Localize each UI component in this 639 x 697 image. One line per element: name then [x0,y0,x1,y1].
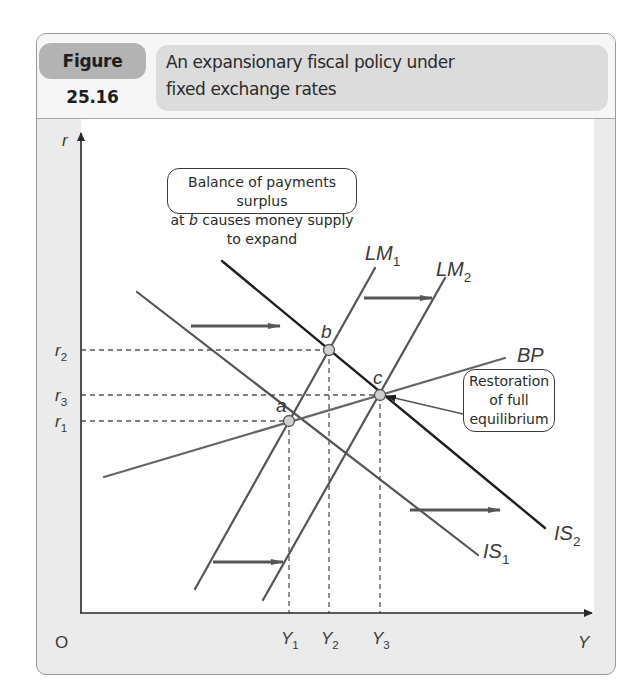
x-tick-Y3: Y3 [372,629,390,651]
y-tick-labels: r2r3r1 [55,341,67,434]
is-lm-bp-chart: IS1IS2LM1LM2BP abc r O Y Y1Y2Y3 r2r3r1 [0,0,639,697]
x-tick-labels: Y1Y2Y3 [281,629,390,651]
bp-label: BP [517,344,544,366]
bop-surplus-callout: Balance of payments surplus at b causes … [167,168,357,214]
equilibrium-point-a [284,416,295,427]
bop-callout-point-ref: b [189,212,198,228]
x-tick-Y1: Y1 [281,629,299,651]
y-axis-label: r [62,131,69,150]
origin-label: O [55,633,68,652]
x-tick-Y2: Y2 [321,629,339,651]
equilibrium-point-c [375,390,386,401]
y-tick-r2: r2 [55,341,67,363]
restoration-line1: Restoration [464,372,554,391]
restoration-line2: of full [464,391,554,410]
restoration-line3: equilibrium [464,410,554,429]
y-tick-r3: r3 [55,386,67,408]
point-label-b: b [321,321,332,342]
bop-callout-line1: Balance of payments surplus [168,173,356,211]
bop-callout-text: causes money supply to expand [198,212,354,247]
point-label-c: c [373,367,383,388]
point-label-a: a [276,395,287,416]
bop-callout-line2: at b causes money supply to expand [168,211,356,249]
equilibrium-point-b [324,345,335,356]
y-tick-r1: r1 [55,412,67,434]
restoration-callout: Restoration of full equilibrium [463,369,555,432]
bop-callout-text: at [170,212,189,228]
x-axis-label: Y [578,633,591,652]
